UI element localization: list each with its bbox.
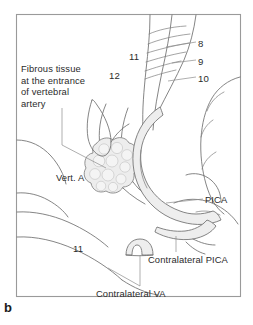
- contralateral-pica-label: Contralateral PICA: [148, 254, 228, 266]
- nerve-9-label: 9: [198, 56, 203, 68]
- nerve-12-label: 12: [109, 70, 120, 82]
- contralateral-va-label: Contralateral VA: [96, 288, 166, 300]
- nerve-8-label: 8: [198, 38, 203, 50]
- nerve-10-label: 10: [198, 73, 209, 85]
- illustration-canvas: [0, 0, 253, 325]
- anatomical-figure-panel: Fibrous tissue at the entrance of verteb…: [0, 0, 253, 325]
- pica-label: PICA: [205, 194, 227, 206]
- nerve-11-upper-label: 11: [129, 51, 139, 63]
- nerve-11-lower-label: 11: [73, 243, 83, 255]
- panel-letter: b: [4, 300, 12, 315]
- vertebral-artery-label: Vert. A: [56, 172, 84, 184]
- fibrous-tissue-caption: Fibrous tissue at the entrance of verteb…: [21, 63, 85, 109]
